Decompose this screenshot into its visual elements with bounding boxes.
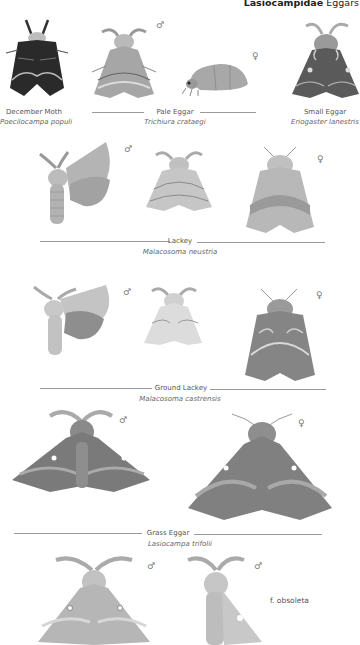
divider-rule: [92, 112, 144, 113]
lackey-male-illustration: [142, 147, 216, 213]
common-name: December Moth: [0, 107, 68, 117]
divider-rule: [14, 533, 142, 534]
caption-grass-eggar-scientific: Lasiocampa trifolii: [120, 539, 240, 549]
lackey-male-side-illustration: [36, 140, 112, 226]
common-name: Ground Lackey: [150, 383, 212, 393]
common-name: Grass Eggar: [140, 528, 196, 538]
female-symbol: ♀: [317, 154, 324, 164]
male-symbol: ♂: [156, 20, 164, 30]
form-obsoleta-label: f. obsoleta: [270, 596, 309, 605]
caption-december-moth: December Moth Poecilocampa populi: [0, 107, 68, 127]
caption-pale-eggar: Pale Eggar Trichiura crataegi: [140, 107, 210, 127]
female-symbol: ♀: [316, 290, 323, 300]
male-symbol: ♂: [119, 415, 127, 425]
scientific-name: Poecilocampa populi: [0, 117, 68, 127]
grass-eggar-female-illustration: [186, 412, 332, 520]
grass-eggar-male-illustration: [10, 408, 150, 494]
divider-rule: [200, 112, 256, 113]
divider-rule: [210, 389, 326, 390]
divider-rule: [40, 241, 170, 242]
common-name: Small Eggar: [290, 107, 360, 117]
december-moth-illustration: [4, 18, 70, 98]
divider-rule: [197, 242, 325, 243]
scientific-name: Lasiocampa trifolii: [120, 539, 240, 549]
caption-small-eggar: Small Eggar Eriogaster lanestris: [290, 107, 360, 127]
common-name: Lackey: [160, 236, 200, 246]
family-name: Lasiocampidae: [244, 0, 324, 8]
grass-eggar-obsoleta-illustration: [186, 556, 262, 645]
caption-lackey-scientific: Malacosoma neustria: [120, 247, 240, 257]
scientific-name: Malacosoma neustria: [120, 247, 240, 257]
pale-eggar-male-illustration: [88, 22, 160, 102]
female-symbol: ♀: [252, 51, 259, 61]
ground-lackey-female-illustration: [243, 285, 317, 381]
small-eggar-illustration: [290, 20, 359, 100]
male-symbol: ♂: [123, 287, 131, 297]
caption-ground-lackey: Ground Lackey: [150, 383, 212, 393]
scientific-name: Malacosoma castrensis: [120, 394, 240, 404]
male-symbol: ♂: [124, 144, 132, 154]
caption-ground-lackey-scientific: Malacosoma castrensis: [120, 394, 240, 404]
divider-rule: [194, 534, 322, 535]
lackey-female-illustration: [244, 141, 316, 235]
caption-grass-eggar: Grass Eggar: [140, 528, 196, 538]
male-symbol: ♂: [147, 561, 155, 571]
ground-lackey-male-illustration: [140, 283, 206, 349]
grass-eggar-male-2-illustration: [36, 556, 152, 645]
scientific-name: Trichiura crataegi: [140, 117, 210, 127]
divider-rule: [40, 388, 152, 389]
female-symbol: ♀: [298, 418, 305, 428]
ground-lackey-male-side-illustration: [32, 283, 112, 355]
family-common-name: Eggars: [326, 0, 359, 8]
scientific-name: Eriogaster lanestris: [290, 117, 360, 127]
pale-eggar-female-illustration: [180, 60, 252, 98]
caption-lackey: Lackey: [160, 236, 200, 246]
male-symbol: ♂: [254, 561, 262, 571]
page-header: Lasiocampidae Eggars: [244, 0, 359, 8]
